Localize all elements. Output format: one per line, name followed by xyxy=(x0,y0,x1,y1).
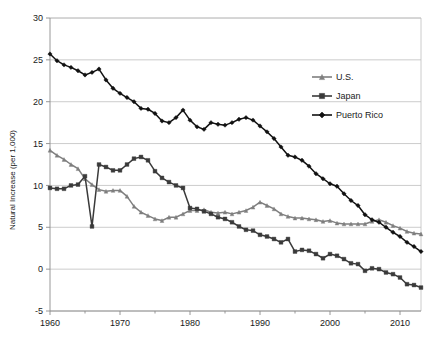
series-marker xyxy=(286,237,290,241)
series-marker xyxy=(83,174,87,178)
y-tick-label-20: 20 xyxy=(33,97,43,107)
series-marker xyxy=(349,261,353,265)
series-marker xyxy=(202,209,206,213)
legend-label: U.S. xyxy=(336,72,354,82)
series-marker xyxy=(69,184,73,188)
y-tick-label-0: 0 xyxy=(38,264,43,274)
x-tick-label-1960: 1960 xyxy=(40,318,60,328)
series-marker xyxy=(272,237,276,241)
legend-marker-swatch xyxy=(319,93,324,98)
natural-increase-line-chart: 196019701980199020002010 -5051015202530 … xyxy=(0,0,428,350)
series-marker xyxy=(237,225,241,229)
series-marker xyxy=(405,282,409,286)
series-marker xyxy=(300,248,304,252)
legend-label: Puerto Rico xyxy=(336,110,383,120)
legend-marker-swatch xyxy=(319,112,325,118)
series-marker xyxy=(398,276,402,280)
chart-legend: U.S.JapanPuerto Rico xyxy=(312,72,383,120)
y-axis-ticks xyxy=(46,18,50,311)
legend-item-japan[interactable]: Japan xyxy=(312,91,361,101)
series-marker xyxy=(167,180,171,184)
series-marker xyxy=(244,228,248,232)
series-marker xyxy=(307,249,311,253)
series-marker xyxy=(412,283,416,287)
series-marker xyxy=(321,256,325,260)
series-marker xyxy=(76,183,80,187)
series-marker xyxy=(377,267,381,271)
series-marker xyxy=(251,229,255,233)
y-tick-label-15: 15 xyxy=(33,139,43,149)
series-marker xyxy=(153,169,157,173)
series-marker xyxy=(391,272,395,276)
series-marker xyxy=(244,115,248,119)
series-marker xyxy=(328,252,332,256)
series-marker xyxy=(118,168,122,172)
y-tick-label-5: 5 xyxy=(38,222,43,232)
series-marker xyxy=(342,257,346,261)
series-marker xyxy=(181,186,185,190)
series-marker xyxy=(139,155,143,159)
series-marker xyxy=(384,271,388,275)
series-marker xyxy=(370,266,374,270)
plot-frame xyxy=(50,18,421,311)
series-marker xyxy=(48,186,52,190)
series-marker xyxy=(258,233,262,237)
series-marker xyxy=(363,269,367,273)
series-line xyxy=(50,157,421,288)
x-tick-label-2010: 2010 xyxy=(390,318,410,328)
series-marker xyxy=(146,158,150,162)
series-marker xyxy=(314,252,318,256)
data-series xyxy=(48,52,423,290)
x-tick-label-1980: 1980 xyxy=(180,318,200,328)
series-marker xyxy=(160,176,164,180)
series-marker xyxy=(195,207,199,211)
x-tick-label-1970: 1970 xyxy=(110,318,130,328)
series-marker xyxy=(174,184,178,188)
y-tick-label-30: 30 xyxy=(33,13,43,23)
y-tick-label--5: -5 xyxy=(35,306,43,316)
series-u-s xyxy=(48,148,423,236)
x-axis-ticks xyxy=(50,311,400,315)
x-axis-tick-labels: 196019701980199020002010 xyxy=(40,318,410,328)
legend-item-puerto-rico[interactable]: Puerto Rico xyxy=(312,110,383,120)
axis-lines xyxy=(50,18,421,311)
y-axis-tick-labels: -5051015202530 xyxy=(33,13,43,316)
series-marker xyxy=(188,206,192,210)
series-marker xyxy=(335,254,339,258)
series-line xyxy=(50,54,421,252)
series-marker xyxy=(419,286,423,290)
gridlines xyxy=(50,18,421,311)
series-marker xyxy=(356,262,360,266)
series-marker xyxy=(293,250,297,254)
series-marker xyxy=(223,123,227,127)
series-marker xyxy=(48,148,52,152)
legend-label: Japan xyxy=(336,91,361,101)
series-marker xyxy=(209,212,213,216)
series-marker xyxy=(132,157,136,161)
series-marker xyxy=(216,122,220,126)
legend-item-u-s[interactable]: U.S. xyxy=(312,72,354,82)
series-marker xyxy=(55,187,59,191)
chart-canvas: 196019701980199020002010 -5051015202530 … xyxy=(0,0,428,350)
series-marker xyxy=(97,163,101,167)
x-tick-label-1990: 1990 xyxy=(250,318,270,328)
x-tick-label-2000: 2000 xyxy=(320,318,340,328)
series-marker xyxy=(223,217,227,221)
series-marker xyxy=(279,240,283,244)
series-marker xyxy=(125,163,129,167)
series-marker xyxy=(265,235,269,239)
y-tick-label-10: 10 xyxy=(33,181,43,191)
series-marker xyxy=(230,220,234,224)
y-tick-label-25: 25 xyxy=(33,55,43,65)
series-marker xyxy=(90,225,94,229)
y-axis-title: Natural Increase (per 1,000) xyxy=(8,130,17,230)
series-marker xyxy=(111,168,115,172)
series-marker xyxy=(104,165,108,169)
series-marker xyxy=(62,187,66,191)
series-marker xyxy=(216,215,220,219)
